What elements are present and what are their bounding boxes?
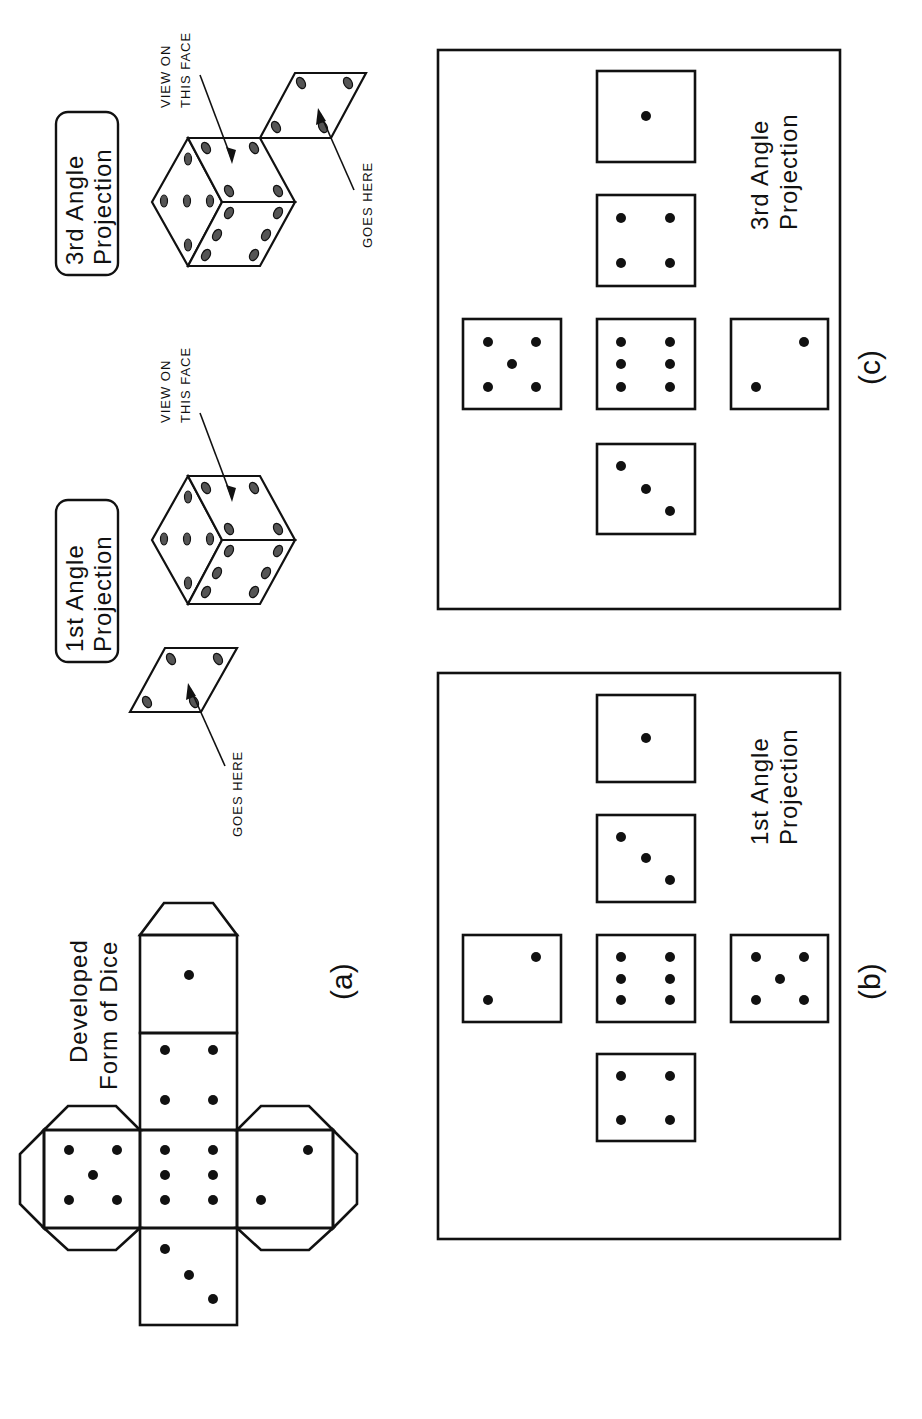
goes-here-3rd: GOES HERE [360, 162, 375, 248]
net-face-one [140, 935, 237, 1033]
panel-b-title-line1: 1st Angle [746, 737, 773, 845]
panel-c-title-line2: Projection [775, 113, 802, 230]
first-angle-projection-panel: 1st Angle Projection (b) [438, 673, 886, 1239]
net-tab-left-bottom [44, 1228, 140, 1250]
first-angle-illustration: 1st Angle Projection VIEW ON THIS FA [56, 347, 295, 837]
label-b: (b) [853, 963, 886, 1000]
goes-here-1st: GOES HERE [230, 751, 245, 837]
third-angle-illustration: 3rd Angle Projection VIEW ON THIS FACE [56, 32, 375, 275]
panel-c-title-line1: 3rd Angle [746, 120, 773, 230]
view-callout-3rd-line2: THIS FACE [178, 32, 193, 108]
third-angle-cube [152, 138, 295, 266]
third-angle-projection-panel: 3rd Angle Projection (c) [438, 50, 886, 609]
view-callout-3rd-line1: VIEW ON [158, 45, 173, 108]
net-title-line1: Developed [65, 939, 92, 1063]
label-c: (c) [853, 350, 886, 385]
net-face-four [140, 1033, 237, 1130]
developed-net: Developed Form of Dice (a) [20, 903, 358, 1325]
first-angle-badge-line2: Projection [89, 535, 116, 652]
view-callout-1st-line1: VIEW ON [158, 360, 173, 423]
net-tab-right-outer [333, 1130, 357, 1228]
dice-projection-diagram: Developed Form of Dice (a) 1st Angle Pro… [0, 0, 922, 1419]
first-angle-cube [152, 476, 295, 604]
net-tab-left-outer [20, 1130, 44, 1228]
third-angle-badge-line1: 3rd Angle [61, 155, 88, 265]
net-tab-end [140, 903, 237, 935]
net-face-six [140, 1130, 237, 1228]
first-angle-badge-line1: 1st Angle [61, 544, 88, 652]
panel-b-title-line2: Projection [775, 728, 802, 845]
third-angle-badge-line2: Projection [89, 148, 116, 265]
label-a: (a) [325, 963, 358, 1000]
net-tab-left-top [44, 1106, 140, 1130]
net-tab-right-bottom [237, 1228, 333, 1250]
net-face-two [237, 1130, 333, 1228]
net-title-line2: Form of Dice [95, 941, 122, 1090]
net-tab-right-top [237, 1106, 333, 1130]
view-callout-1st-line2: THIS FACE [178, 347, 193, 423]
